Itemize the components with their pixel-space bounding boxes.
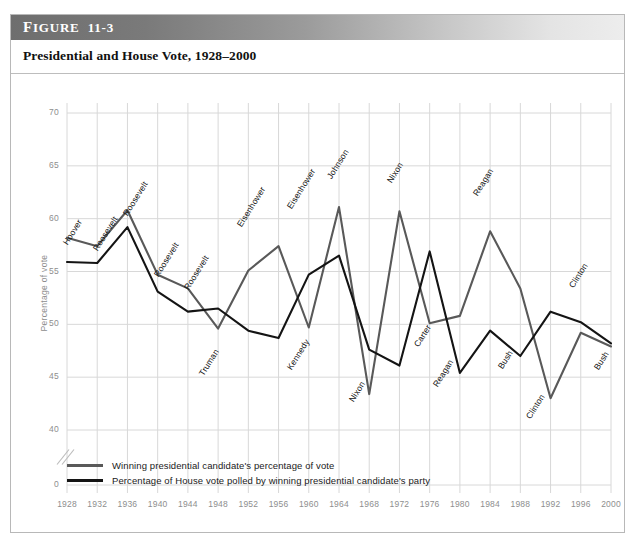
y-axis-tick: 60: [33, 213, 59, 223]
data-point-label: Reagan: [431, 358, 456, 389]
x-axis-tick: 1972: [382, 499, 416, 509]
data-point-label: Kennedy: [285, 337, 312, 371]
figure-card: FIGURE 11-3 Presidential and House Vote,…: [10, 14, 625, 533]
data-point-label: Roosevelt: [152, 241, 181, 279]
x-axis-tick: 1988: [503, 499, 537, 509]
x-axis-tick: 1944: [171, 499, 205, 509]
data-point-label: Bush: [496, 349, 515, 371]
data-point-label: Clinton: [567, 261, 590, 289]
legend-item-house: Percentage of House vote polled by winni…: [67, 473, 587, 488]
legend-label-house: Percentage of House vote polled by winni…: [112, 475, 430, 486]
y-axis-tick-zero: 0: [33, 479, 59, 489]
legend-item-presidential: Winning presidential candidate's percent…: [67, 458, 587, 473]
figure-label-first-letter: F: [23, 19, 33, 35]
y-axis-tick: 50: [33, 318, 59, 328]
figure-label: FIGURE 11-3: [23, 19, 114, 36]
data-point-label: Reagan: [471, 167, 496, 198]
x-axis-tick: 1956: [262, 499, 296, 509]
x-axis-tick: 1996: [564, 499, 598, 509]
x-axis-tick: 1964: [322, 499, 356, 509]
data-point-label: Johnson: [325, 147, 351, 180]
x-axis-tick: 1948: [201, 499, 235, 509]
x-axis-tick: 1940: [141, 499, 175, 509]
data-point-label: Truman: [197, 347, 221, 377]
figure-number: 11-3: [88, 20, 114, 35]
chart-legend: Winning presidential candidate's percent…: [67, 458, 587, 488]
data-point-label: Nixon: [347, 379, 367, 403]
data-point-label: Nixon: [385, 160, 405, 184]
x-axis-tick: 1932: [80, 499, 114, 509]
legend-swatch-house: [67, 479, 103, 483]
data-point-label: Bush: [592, 350, 611, 372]
data-point-label: Hoover: [61, 218, 84, 247]
data-point-label: Roosevelt: [121, 180, 150, 218]
x-axis-tick: 1976: [413, 499, 447, 509]
legend-label-presidential: Winning presidential candidate's percent…: [112, 460, 334, 471]
y-axis-tick: 65: [33, 160, 59, 170]
y-axis-tick: 70: [33, 107, 59, 117]
data-point-label: Roosevelt: [91, 215, 120, 253]
y-axis-tick: 45: [33, 371, 59, 381]
x-axis-tick: 1960: [292, 499, 326, 509]
legend-swatch-presidential: [67, 464, 103, 467]
y-axis-tick: 55: [33, 266, 59, 276]
data-point-label: Carter: [412, 323, 433, 349]
x-axis-tick: 1928: [50, 499, 84, 509]
data-point-label: Eisenhower: [285, 167, 318, 211]
data-point-label: Clinton: [524, 392, 547, 420]
data-point-label: Roosevelt: [182, 254, 211, 292]
x-axis-tick: 1952: [231, 499, 265, 509]
x-axis-tick: 1984: [473, 499, 507, 509]
x-axis-tick: 1980: [443, 499, 477, 509]
figure-label-word: IGURE: [33, 20, 80, 35]
y-axis-title: Percentage of vote: [39, 238, 49, 348]
x-axis-tick: 1992: [534, 499, 568, 509]
x-axis-tick: 1936: [110, 499, 144, 509]
x-axis-tick: 2000: [594, 499, 628, 509]
x-axis-tick: 1968: [352, 499, 386, 509]
figure-title: Presidential and House Vote, 1928–2000: [23, 48, 256, 64]
y-axis-tick: 40: [33, 424, 59, 434]
data-point-label: Eisenhower: [235, 185, 268, 229]
